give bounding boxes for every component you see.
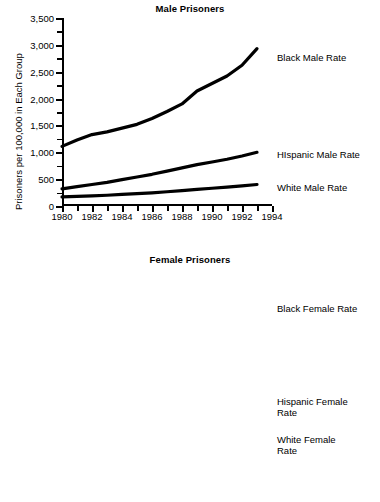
y-tick-label-male-1500: 1,500 bbox=[30, 120, 54, 131]
chart-title-male: Male Prisoners bbox=[0, 3, 380, 14]
y-tick-label-male-500: 500 bbox=[38, 174, 54, 185]
chart-panel-male: Male Prisoners Prisoners per 100,000 in … bbox=[0, 0, 380, 250]
x-minor-tick-male-1987 bbox=[167, 206, 169, 211]
series-label-white-male: White Male Rate bbox=[277, 183, 347, 194]
x-tick-label-male-1990: 1990 bbox=[201, 211, 222, 222]
x-tick-label-male-1992: 1992 bbox=[231, 211, 252, 222]
y-tick-label-male-2000: 2,000 bbox=[30, 93, 54, 104]
y-tick-label-male-0: 0 bbox=[49, 201, 54, 212]
series-line-black-male-rate bbox=[62, 49, 257, 147]
x-tick-label-male-1986: 1986 bbox=[141, 211, 162, 222]
series-label-black-female: Black Female Rate bbox=[277, 304, 357, 315]
series-lines-male bbox=[62, 18, 362, 206]
x-minor-tick-male-1981 bbox=[77, 206, 79, 211]
plot-area-male: 05001,0001,5002,0002,5003,0003,500198019… bbox=[62, 18, 272, 206]
x-minor-tick-male-1989 bbox=[197, 206, 199, 211]
series-label-hispanic-female: Hispanic Female Rate bbox=[277, 397, 348, 418]
series-label-hispanic-male: HIspanic Male Rate bbox=[277, 150, 360, 161]
x-minor-tick-male-1983 bbox=[107, 206, 109, 211]
y-tick-label-male-3000: 3,000 bbox=[30, 39, 54, 50]
x-tick-label-male-1980: 1980 bbox=[51, 211, 72, 222]
y-tick-label-male-1000: 1,000 bbox=[30, 147, 54, 158]
x-minor-tick-male-1991 bbox=[227, 206, 229, 211]
chart-title-female: Female Prisoners bbox=[0, 254, 380, 265]
y-tick-label-male-2500: 2,500 bbox=[30, 66, 54, 77]
series-line-hispanic-male-rate bbox=[62, 152, 257, 189]
x-tick-label-male-1988: 1988 bbox=[171, 211, 192, 222]
series-label-black-male: Black Male Rate bbox=[277, 53, 346, 64]
x-tick-label-male-1982: 1982 bbox=[81, 211, 102, 222]
series-label-white-female: White Female Rate bbox=[277, 435, 336, 456]
x-minor-tick-male-1985 bbox=[137, 206, 139, 211]
y-tick-label-male-3500: 3,500 bbox=[30, 13, 54, 24]
x-minor-tick-male-1993 bbox=[257, 206, 259, 211]
x-tick-label-male-1984: 1984 bbox=[111, 211, 132, 222]
x-tick-label-male-1994: 1994 bbox=[261, 211, 282, 222]
series-line-white-male-rate bbox=[62, 185, 257, 197]
y-axis-caption-male: Prisoners per 100,000 in Each Group bbox=[13, 53, 24, 210]
chart-panel-female: Female Prisoners Prisoners per 100,000 i… bbox=[0, 250, 380, 502]
figure-two-line-charts: Male Prisoners Prisoners per 100,000 in … bbox=[0, 0, 380, 502]
